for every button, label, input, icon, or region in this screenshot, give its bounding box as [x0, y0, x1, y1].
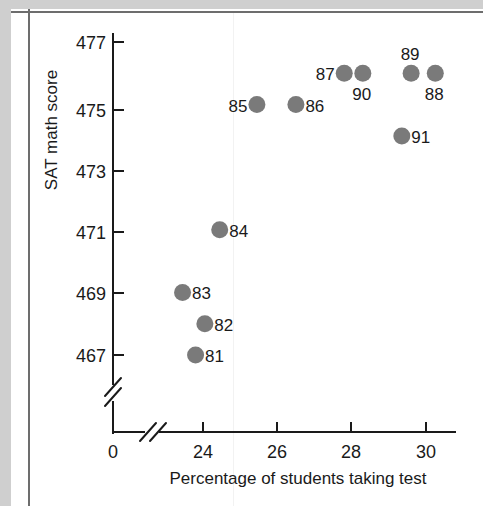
data-point-label-85: 85: [228, 97, 247, 116]
y-tick-label-471: 471: [76, 223, 106, 243]
x-tick-label-26: 26: [267, 442, 287, 462]
plot-area: 477 475 473 471 469 467 0 24 26 28 30 Pe…: [0, 0, 483, 506]
y-tick-label-473: 473: [76, 162, 106, 182]
data-point-marker-85[interactable]: [248, 96, 265, 113]
y-tick-label-469: 469: [76, 284, 106, 304]
y-tick-label-477: 477: [76, 33, 106, 53]
data-point-label-90: 90: [352, 85, 371, 104]
data-point-marker-84[interactable]: [211, 221, 228, 238]
scatter-plot-figure: 477 475 473 471 469 467 0 24 26 28 30 Pe…: [0, 0, 483, 506]
y-tick-marks: [113, 42, 124, 355]
data-point-marker-86[interactable]: [287, 96, 304, 113]
data-point-marker-82[interactable]: [196, 315, 213, 332]
data-point-marker-88[interactable]: [427, 65, 444, 82]
data-point-label-84: 84: [229, 222, 248, 241]
data-point-label-88: 88: [425, 85, 444, 104]
data-point-label-89: 89: [401, 45, 420, 64]
data-series: 8182838485868790898891: [174, 45, 444, 366]
data-point-label-82: 82: [214, 316, 233, 335]
x-tick-marks: [203, 422, 426, 432]
data-point-marker-81[interactable]: [187, 347, 204, 364]
data-point-label-91: 91: [411, 128, 430, 147]
x-tick-label-24: 24: [193, 442, 213, 462]
y-tick-label-467: 467: [76, 346, 106, 366]
data-point-marker-91[interactable]: [393, 127, 410, 144]
y-axis-title: SAT math score: [42, 70, 61, 190]
data-point-label-86: 86: [305, 97, 324, 116]
x-tick-label-30: 30: [416, 442, 436, 462]
data-point-marker-83[interactable]: [174, 284, 191, 301]
data-point-marker-87[interactable]: [336, 65, 353, 82]
x-axis-title: Percentage of students taking test: [169, 469, 426, 488]
x-origin-label: 0: [108, 442, 118, 462]
data-point-label-81: 81: [205, 347, 224, 366]
x-tick-label-28: 28: [341, 442, 361, 462]
data-point-label-83: 83: [192, 284, 211, 303]
y-tick-label-475: 475: [76, 101, 106, 121]
data-point-marker-90[interactable]: [354, 65, 371, 82]
data-point-marker-89[interactable]: [403, 65, 420, 82]
data-point-label-87: 87: [316, 65, 335, 84]
